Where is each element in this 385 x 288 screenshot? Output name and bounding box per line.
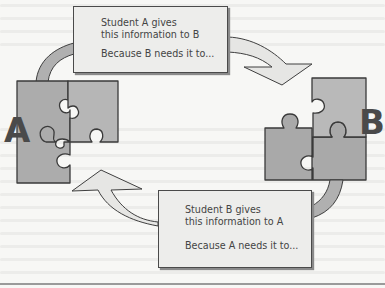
- connector-a-to-box-icon: [36, 43, 74, 82]
- box-b-line-1: Student B gives: [185, 204, 311, 216]
- box-b-line-3: Because A needs it to...: [185, 240, 311, 252]
- box-a-line-3: Because B needs it to...: [101, 48, 227, 60]
- puzzle-a-icon: [17, 81, 118, 183]
- box-a-line-1: Student A gives: [101, 17, 227, 29]
- info-box-a-to-b: Student A gives this information to B Be…: [73, 6, 228, 73]
- info-box-b-to-a: Student B gives this information to A Be…: [158, 190, 312, 268]
- page-bottom-rule: [0, 283, 385, 285]
- node-label-b: B: [359, 105, 385, 139]
- box-b-line-2: this information to A: [185, 216, 311, 228]
- arrow-to-b-icon: [228, 37, 312, 85]
- box-a-line-2: this information to B: [101, 29, 227, 41]
- arrow-to-a-icon: [72, 170, 158, 226]
- puzzle-b-icon: [265, 78, 366, 180]
- node-label-a: A: [4, 113, 30, 147]
- connector-b-to-box-icon: [312, 180, 343, 218]
